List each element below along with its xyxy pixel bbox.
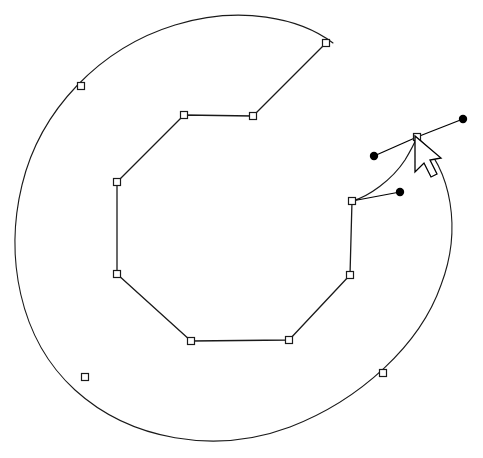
vertex-left-upper[interactable] <box>114 179 121 186</box>
anchor-outer-bottom-left[interactable] <box>82 374 89 381</box>
vector-drawing-surface[interactable] <box>0 0 483 458</box>
vertex-upper-mid-left[interactable] <box>181 112 188 119</box>
handle-lower-dot[interactable] <box>396 188 404 196</box>
vertex-right-upper[interactable] <box>349 198 356 205</box>
vector-editing-canvas[interactable] <box>0 0 483 458</box>
handle-upper-right-dot[interactable] <box>459 115 467 123</box>
canvas-background <box>0 0 483 458</box>
vertex-bottom-right[interactable] <box>286 337 293 344</box>
vertex-upper-mid-right[interactable] <box>250 113 257 120</box>
vertex-right-lower[interactable] <box>347 272 354 279</box>
vertex-bottom-left[interactable] <box>188 338 195 345</box>
anchor-outer-bottom-right[interactable] <box>380 370 387 377</box>
handle-upper-left-dot[interactable] <box>370 152 378 160</box>
vertex-top-right[interactable] <box>323 40 330 47</box>
vertex-left-lower[interactable] <box>114 271 121 278</box>
anchor-outer-top-left[interactable] <box>78 83 85 90</box>
